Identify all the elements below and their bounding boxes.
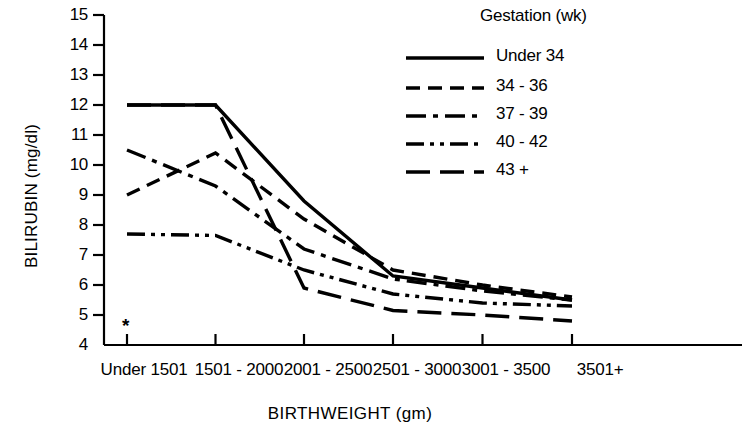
y-tick-label: 9 [54, 186, 88, 203]
y-tick-label: 12 [54, 96, 88, 113]
legend-item-4: 43 + [406, 158, 529, 182]
y-tick-label: 11 [54, 126, 88, 143]
y-axis-title: BILIRUBIN (mg/dl) [22, 76, 42, 316]
x-axis-title: BIRTHWEIGHT (gm) [0, 404, 700, 424]
legend-line-swatch [406, 136, 484, 148]
legend-item-2: 37 - 39 [406, 102, 548, 126]
legend-item-3: 40 - 42 [406, 130, 548, 154]
legend-item-label: Under 34 [496, 46, 564, 66]
y-tick-label: 14 [54, 36, 88, 53]
y-tick-label: 8 [54, 216, 88, 233]
y-tick-label: 15 [54, 6, 88, 23]
legend-item-label: 43 + [496, 160, 529, 180]
legend-item-label: 37 - 39 [496, 104, 548, 124]
asterisk-annotation: * [122, 316, 129, 335]
legend-line-swatch [406, 80, 484, 92]
legend-item-label: 40 - 42 [496, 132, 548, 152]
y-tick-label: 4 [54, 336, 88, 353]
legend-line-swatch [406, 50, 484, 62]
y-tick-label: 7 [54, 246, 88, 263]
series-line-3 [127, 234, 572, 306]
legend-item-1: 34 - 36 [406, 74, 548, 98]
legend-item-label: 34 - 36 [496, 76, 548, 96]
y-tick-label: 5 [54, 306, 88, 323]
legend-item-0: Under 34 [406, 44, 564, 68]
x-tick-label: 3501+ [520, 361, 680, 378]
chart-figure: 151413121110987654 Under 15011501 - 2000… [0, 0, 749, 436]
y-tick-label: 10 [54, 156, 88, 173]
y-tick-label: 6 [54, 276, 88, 293]
y-tick-label: 13 [54, 66, 88, 83]
legend-line-swatch [406, 108, 484, 120]
legend-line-swatch [406, 164, 484, 176]
legend-title: Gestation (wk) [480, 6, 587, 26]
